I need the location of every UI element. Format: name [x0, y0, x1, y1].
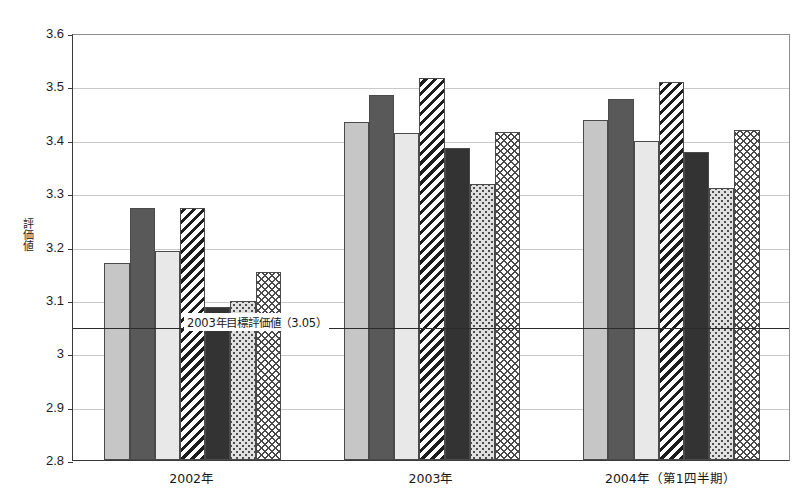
bar: [709, 188, 734, 460]
x-axis-category-label: 2002年: [102, 468, 282, 487]
y-axis-tick-label: 3.1: [30, 293, 64, 308]
y-axis-tick-label: 3.4: [30, 133, 64, 148]
y-axis-tick-label: 3.3: [30, 186, 64, 201]
bar: [583, 120, 608, 460]
x-axis-category-label: 2004年（第1四半期）: [580, 468, 760, 487]
bar: [470, 184, 495, 460]
y-axis-tick: [68, 142, 73, 143]
bar: [659, 82, 684, 460]
y-axis-tick-labels: 3.63.53.43.33.23.132.92.8: [26, 0, 64, 496]
bar: [634, 141, 659, 460]
bar: [495, 132, 520, 460]
bar: [445, 148, 470, 460]
bar: [344, 122, 369, 460]
y-axis-tick: [68, 195, 73, 196]
plot-area: 2003年目標評価値（3.05）: [72, 34, 790, 461]
bar: [684, 152, 709, 461]
bar: [180, 208, 205, 460]
target-reference-line-label: 2003年目標評価値（3.05）: [184, 313, 329, 331]
y-axis-tick-label: 3.6: [30, 26, 64, 41]
y-axis-tick-label: 3.5: [30, 79, 64, 94]
bar: [104, 263, 129, 460]
bar: [734, 130, 759, 460]
bar: [256, 272, 281, 460]
y-axis-tick: [68, 302, 73, 303]
bar-chart: 評価値 3.63.53.43.33.23.132.92.8 2003年目標評価値…: [0, 0, 806, 496]
bar: [155, 251, 180, 460]
bar: [369, 95, 394, 460]
y-axis-tick: [68, 409, 73, 410]
y-axis-tick: [68, 249, 73, 250]
y-axis-tick-label: 3.2: [30, 240, 64, 255]
y-axis-tick: [68, 355, 73, 356]
bar: [130, 208, 155, 460]
y-axis-tick-label: 2.8: [30, 453, 64, 468]
y-axis-tick: [68, 462, 73, 463]
bar: [608, 99, 633, 460]
target-reference-line: [73, 328, 789, 330]
bar: [394, 133, 419, 460]
y-axis-tick-label: 2.9: [30, 400, 64, 415]
y-axis-tick-label: 3: [30, 346, 64, 361]
bar: [419, 78, 444, 460]
y-axis-tick: [68, 88, 73, 89]
x-axis-category-label: 2003年: [341, 468, 521, 487]
y-axis-tick: [68, 35, 73, 36]
